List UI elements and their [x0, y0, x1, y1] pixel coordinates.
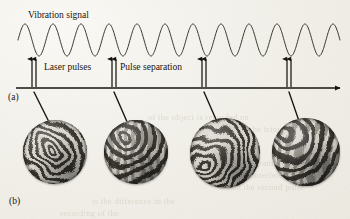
interferogram-2 [104, 120, 168, 184]
pulse-pair-2 [112, 59, 116, 87]
fringe-layer [104, 120, 168, 184]
panel-a-timing-diagram [0, 0, 350, 219]
figure-container: of the object is recorded onthe fringes … [0, 0, 350, 219]
fringe-pattern [272, 118, 340, 186]
vibration-waveform [18, 24, 340, 56]
fringe-layer [23, 120, 87, 184]
laser-pulses-label: Laser pulses [44, 62, 91, 72]
pulse-pair-4 [287, 59, 291, 87]
fringe-pattern [104, 120, 168, 184]
pulse-pair-3 [202, 59, 206, 87]
panel-b-label: (b) [9, 196, 20, 206]
fringe-pattern [23, 120, 87, 184]
fringe-pattern [190, 118, 260, 188]
interferogram-1 [23, 120, 87, 184]
pulse-separation-label: Pulse separation [120, 62, 182, 72]
interferogram-4 [272, 118, 340, 186]
pulse-pair-1 [32, 59, 36, 87]
fringe-layer [190, 118, 260, 188]
panel-a-label: (a) [8, 92, 19, 102]
fringe-layer [272, 118, 340, 186]
vibration-signal-label: Vibration signal [28, 10, 89, 20]
interferogram-3 [190, 118, 260, 188]
